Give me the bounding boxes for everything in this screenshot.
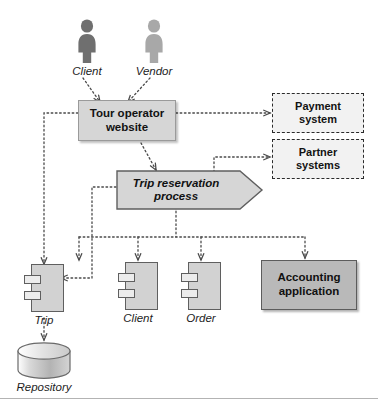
component-tab-icon bbox=[181, 289, 198, 298]
repository-label: Repository bbox=[2, 381, 86, 393]
component-tab-icon bbox=[24, 291, 41, 300]
client-actor-label: Client bbox=[56, 65, 118, 77]
diagram-canvas: Client Vendor Tour operator website Paym… bbox=[0, 0, 378, 408]
vendor-actor: Vendor bbox=[137, 18, 171, 64]
vendor-actor-label: Vendor bbox=[123, 65, 185, 77]
page-divider bbox=[0, 398, 378, 399]
client-actor: Client bbox=[70, 18, 104, 64]
tour-operator-website-node[interactable]: Tour operator website bbox=[78, 100, 176, 141]
payment-system-node[interactable]: Payment system bbox=[272, 93, 364, 133]
trip-component[interactable]: Trip bbox=[24, 264, 64, 312]
component-body bbox=[125, 262, 158, 310]
tour-operator-website-label: Tour operator website bbox=[90, 107, 165, 134]
payment-system-label: Payment system bbox=[295, 100, 341, 126]
person-icon bbox=[70, 18, 104, 64]
trip-reservation-process-node[interactable]: Trip reservation process bbox=[116, 170, 264, 210]
wire-client-to-website bbox=[83, 78, 100, 102]
component-body bbox=[31, 264, 64, 312]
component-tab-icon bbox=[118, 273, 135, 282]
accounting-application-node[interactable]: Accounting application bbox=[261, 260, 357, 310]
partner-systems-node[interactable]: Partner systems bbox=[272, 139, 364, 179]
component-tab-icon bbox=[24, 275, 41, 284]
client-component-label: Client bbox=[102, 312, 174, 324]
order-component[interactable]: Order bbox=[181, 262, 221, 310]
component-body bbox=[188, 262, 221, 310]
person-icon bbox=[137, 18, 171, 64]
accounting-application-label: Accounting application bbox=[277, 271, 340, 298]
partner-systems-label: Partner systems bbox=[296, 146, 340, 172]
trip-component-label: Trip bbox=[8, 314, 80, 326]
trip-reservation-process-label: Trip reservation process bbox=[124, 170, 228, 210]
repository-node[interactable]: Repository bbox=[16, 342, 72, 380]
component-tab-icon bbox=[181, 273, 198, 282]
component-tab-icon bbox=[118, 289, 135, 298]
client-component[interactable]: Client bbox=[118, 262, 158, 310]
database-cylinder-icon bbox=[16, 342, 72, 380]
order-component-label: Order bbox=[165, 312, 237, 324]
